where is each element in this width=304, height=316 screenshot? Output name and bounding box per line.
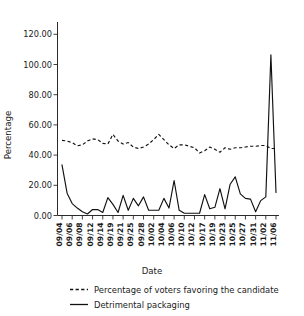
y-axis-title: Percentage <box>3 111 13 159</box>
x-tick-label: 09/28 <box>137 223 146 247</box>
y-tick-label: 20.00 <box>29 180 52 190</box>
x-tick-label: 10/12 <box>187 223 196 247</box>
x-axis-tick-labels: 09/0409/0609/0809/1209/1409/1909/2109/25… <box>55 222 278 246</box>
x-tick-label: 09/19 <box>106 223 115 247</box>
series-line-detrimental-packaging <box>62 55 276 214</box>
chart-figure: Percentage 0.00 20.00 40.00 60.00 80.00 … <box>0 0 304 316</box>
x-tick-label: 09/06 <box>65 223 74 247</box>
percentage-vs-date-line-chart: Percentage 0.00 20.00 40.00 60.00 80.00 … <box>0 0 304 316</box>
x-tick-label: 10/19 <box>208 223 217 247</box>
x-axis-title: Date <box>142 266 163 276</box>
x-tick-label: 09/25 <box>126 223 135 247</box>
x-tick-label: 10/31 <box>249 223 258 247</box>
chart-legend: Percentage of voters favoring the candid… <box>70 285 279 310</box>
y-tick-label: 100.00 <box>23 60 52 70</box>
x-tick-label: 10/10 <box>177 223 186 247</box>
legend-label-voters-favoring: Percentage of voters favoring the candid… <box>94 285 279 295</box>
x-tick-label: 11/06 <box>269 223 278 247</box>
x-tick-label: 09/14 <box>96 223 105 247</box>
y-tick-label: 40.00 <box>29 150 52 160</box>
x-tick-label: 10/06 <box>167 223 176 247</box>
x-tick-label: 10/25 <box>228 222 237 246</box>
x-axis-tickmarks <box>62 216 276 220</box>
x-tick-label: 10/23 <box>218 223 227 247</box>
x-tick-label: 09/08 <box>75 223 84 247</box>
x-tick-label: 11/02 <box>259 223 268 247</box>
y-tick-label: 120.00 <box>23 29 52 39</box>
y-axis-tickmarks <box>54 34 58 215</box>
y-tick-label: 60.00 <box>29 120 52 130</box>
legend-label-detrimental-packaging: Detrimental packaging <box>94 300 190 310</box>
y-axis-tick-labels: 0.00 20.00 40.00 60.00 80.00 100.00 120.… <box>23 29 52 220</box>
y-tick-label: 80.00 <box>29 90 52 100</box>
axis-spines <box>58 22 280 216</box>
x-tick-label: 10/04 <box>157 223 166 247</box>
x-tick-label: 09/04 <box>55 223 64 247</box>
x-tick-label: 09/12 <box>86 223 95 247</box>
y-tick-label: 0.00 <box>34 211 52 221</box>
x-tick-label: 10/27 <box>238 223 247 247</box>
series-line-voters-favoring <box>62 134 276 153</box>
x-tick-label: 10/17 <box>198 223 207 247</box>
x-tick-label: 10/02 <box>147 223 156 247</box>
x-tick-label: 09/21 <box>116 223 125 247</box>
